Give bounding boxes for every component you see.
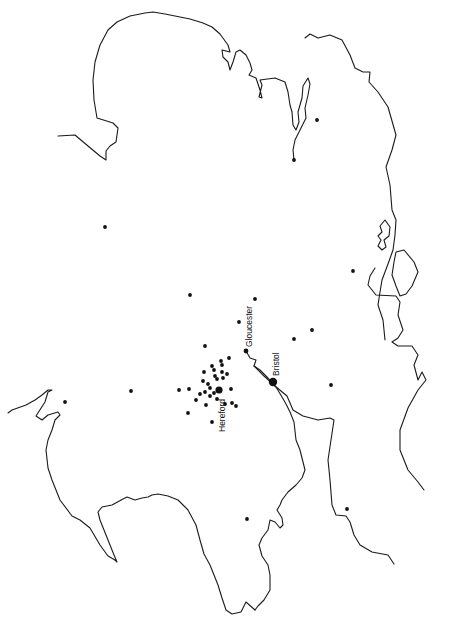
- city-label-gloucester: Gloucester: [244, 306, 254, 347]
- site-point: [204, 403, 208, 407]
- island-wight-like: [392, 250, 418, 296]
- site-point: [63, 400, 67, 404]
- site-point: [210, 364, 214, 368]
- site-point: [225, 372, 229, 376]
- coastline-south-wales: [98, 494, 255, 614]
- site-point: [187, 387, 191, 391]
- site-point: [227, 356, 231, 360]
- site-point: [186, 411, 190, 415]
- site-point: [230, 401, 234, 405]
- site-point: [194, 398, 198, 402]
- site-point: [237, 320, 241, 324]
- city-label-bristol: Bristol: [271, 352, 281, 376]
- site-point: [329, 383, 333, 387]
- site-point: [129, 389, 133, 393]
- map-canvas: GloucesterBristolHereford: [0, 0, 454, 623]
- site-point: [201, 379, 205, 383]
- site-point: [198, 392, 202, 396]
- site-point: [188, 293, 192, 297]
- coastline-estuary: [378, 220, 390, 250]
- site-point: [292, 158, 296, 162]
- site-point: [221, 376, 225, 380]
- site-point: [206, 382, 210, 386]
- city-marker-bristol: [269, 378, 277, 386]
- site-point: [208, 386, 212, 390]
- site-point: [210, 420, 214, 424]
- site-point: [315, 118, 319, 122]
- site-point: [345, 507, 349, 511]
- site-point: [215, 377, 219, 381]
- site-point: [220, 370, 224, 374]
- city-label-hereford: Hereford: [217, 399, 227, 432]
- coastline-west-wales: [8, 390, 115, 560]
- site-point: [203, 344, 207, 348]
- site-point: [310, 328, 314, 332]
- coastline-east: [305, 34, 396, 340]
- site-point: [212, 368, 216, 372]
- site-point: [220, 363, 224, 367]
- site-point: [253, 297, 257, 301]
- map-svg: GloucesterBristolHereford: [0, 0, 454, 623]
- site-point: [292, 337, 296, 341]
- site-point: [177, 388, 181, 392]
- severn-north-bank: [246, 351, 394, 564]
- site-point: [229, 387, 233, 391]
- site-point: [208, 394, 212, 398]
- city-marker-gloucester: [244, 349, 249, 354]
- severn-south-bank: [254, 366, 305, 610]
- city-marker-hereford: [215, 386, 222, 393]
- site-point: [219, 359, 223, 363]
- coastline-south-east: [368, 268, 426, 490]
- site-point: [245, 517, 249, 521]
- site-point: [202, 370, 206, 374]
- site-point: [234, 404, 238, 408]
- site-point: [103, 225, 107, 229]
- site-point: [351, 269, 355, 273]
- site-point: [212, 391, 216, 395]
- coastline-north: [58, 12, 310, 160]
- site-point: [203, 390, 207, 394]
